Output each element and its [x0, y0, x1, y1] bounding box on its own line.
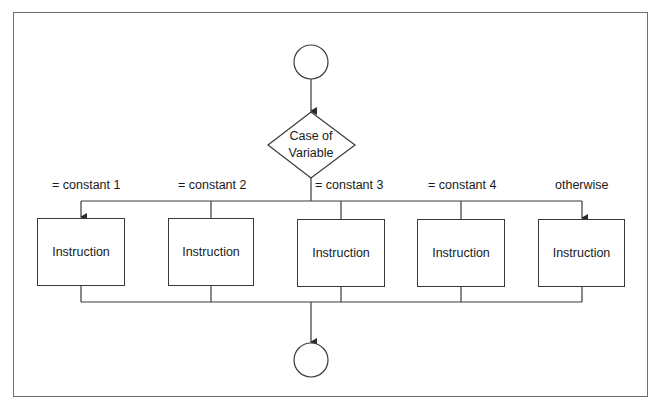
decision-label: Case of Variable [271, 128, 351, 162]
decision-label-line2: Variable [271, 145, 351, 162]
instruction-box-1: Instruction [37, 218, 125, 286]
branch-condition-otherwise: otherwise [555, 178, 609, 192]
instruction-box-4: Instruction [417, 219, 505, 287]
instruction-box-3: Instruction [297, 219, 385, 287]
branch-condition-3: = constant 3 [315, 178, 383, 192]
end-node [294, 343, 328, 377]
instruction-box-2: Instruction [168, 218, 254, 286]
flowchart-lines [0, 0, 661, 412]
branch-condition-4: = constant 4 [428, 178, 496, 192]
instruction-box-otherwise: Instruction [538, 219, 625, 287]
branch-condition-1: = constant 1 [52, 178, 120, 192]
decision-label-line1: Case of [271, 128, 351, 145]
start-node [294, 45, 328, 79]
branch-condition-2: = constant 2 [178, 178, 246, 192]
